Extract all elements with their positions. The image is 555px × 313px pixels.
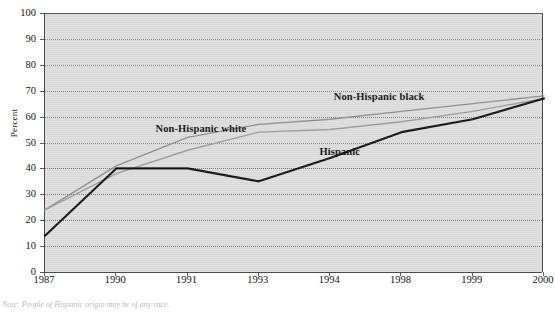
plot-area: Non-Hispanic whiteNon-Hispanic blackHisp… bbox=[44, 13, 543, 272]
x-axis-tick-label: 2000 bbox=[513, 275, 555, 286]
y-axis-tick-label: 60 bbox=[0, 112, 36, 123]
series-line bbox=[45, 96, 544, 210]
y-axis-tick-label: 40 bbox=[0, 163, 36, 174]
x-axis-tick-label: 1998 bbox=[370, 275, 430, 286]
x-axis-tick-label: 1987 bbox=[14, 275, 74, 286]
gridline bbox=[45, 272, 542, 273]
y-axis-tick-label: 10 bbox=[0, 241, 36, 252]
y-axis-tick-label: 100 bbox=[0, 8, 36, 19]
y-axis-tick-label: 20 bbox=[0, 215, 36, 226]
x-axis-tick-label: 1994 bbox=[299, 275, 359, 286]
series-label: Non-Hispanic black bbox=[334, 91, 425, 102]
series-label: Non-Hispanic white bbox=[155, 123, 246, 134]
series-line bbox=[45, 98, 544, 235]
y-axis-tick-label: 50 bbox=[0, 138, 36, 149]
series-lines bbox=[45, 13, 544, 272]
x-axis-tick-label: 1993 bbox=[228, 275, 288, 286]
x-axis-tick bbox=[543, 272, 544, 276]
y-axis-tick-label: 90 bbox=[0, 34, 36, 45]
figure-footnote: Note: People of Hispanic origin may be o… bbox=[2, 300, 170, 311]
y-axis-tick-label: 30 bbox=[0, 189, 36, 200]
x-axis-tick-label: 1991 bbox=[157, 275, 217, 286]
y-axis-tick-label: 70 bbox=[0, 86, 36, 97]
series-line bbox=[45, 98, 544, 209]
x-axis-tick-label: 1990 bbox=[85, 275, 145, 286]
series-label: Hispanic bbox=[319, 146, 359, 157]
chart-figure: Percent 0102030405060708090100 198719901… bbox=[0, 0, 555, 313]
y-axis-tick-label: 80 bbox=[0, 60, 36, 71]
x-axis-tick-label: 1999 bbox=[442, 275, 502, 286]
